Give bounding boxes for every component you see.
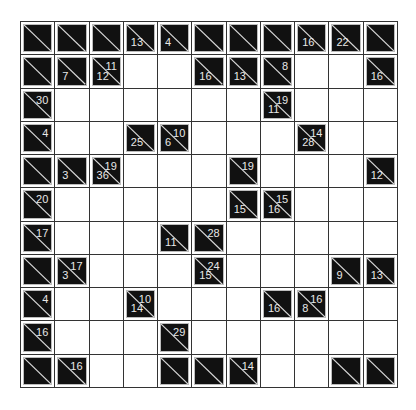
block-fill [194,24,223,52]
block-fill [23,57,52,85]
entry-cell[interactable] [55,122,88,154]
entry-cell[interactable] [329,222,362,254]
entry-cell[interactable] [124,255,157,287]
entry-cell[interactable] [329,122,362,154]
entry-cell[interactable] [124,155,157,187]
block-fill: 29 [160,323,189,351]
clue-block [364,22,397,54]
entry-cell[interactable] [295,222,328,254]
clue-block: 15 [227,188,260,220]
entry-cell[interactable] [295,155,328,187]
entry-cell[interactable] [261,122,294,154]
entry-cell[interactable] [227,255,260,287]
entry-cell[interactable] [124,55,157,87]
down-clue: 7 [62,71,68,82]
entry-cell[interactable] [192,122,225,154]
clue-block: 7 [55,55,88,87]
entry-cell[interactable] [364,122,397,154]
entry-cell[interactable] [158,55,191,87]
across-clue: 10 [173,128,185,139]
entry-cell[interactable] [90,321,123,353]
entry-cell[interactable] [124,321,157,353]
clue-block [364,355,397,387]
entry-cell[interactable] [261,255,294,287]
entry-cell[interactable] [227,122,260,154]
entry-cell[interactable] [90,355,123,387]
entry-cell[interactable] [192,188,225,220]
entry-cell[interactable] [364,222,397,254]
entry-cell[interactable] [227,321,260,353]
entry-cell[interactable] [192,155,225,187]
block-fill: 30 [23,91,52,119]
down-clue: 3 [62,270,68,281]
entry-cell[interactable] [90,122,123,154]
entry-cell[interactable] [158,155,191,187]
entry-cell[interactable] [329,55,362,87]
entry-cell[interactable] [55,321,88,353]
block-fill: 12 [366,157,395,185]
entry-cell[interactable] [90,255,123,287]
block-fill: 1428 [297,124,326,152]
entry-cell[interactable] [295,55,328,87]
entry-cell[interactable] [295,355,328,387]
diagonal-divider-icon [230,25,257,51]
entry-cell[interactable] [158,89,191,121]
across-clue: 19 [242,161,254,172]
block-fill: 7 [57,57,86,85]
entry-cell[interactable] [124,355,157,387]
entry-cell[interactable] [55,288,88,320]
clue-block: 29 [158,321,191,353]
clue-block: 16 [55,355,88,387]
across-clue: 29 [173,327,185,338]
entry-cell[interactable] [55,222,88,254]
entry-cell[interactable] [192,321,225,353]
entry-cell[interactable] [364,288,397,320]
entry-cell[interactable] [90,222,123,254]
entry-cell[interactable] [295,255,328,287]
diagonal-divider-icon [161,358,188,384]
entry-cell[interactable] [261,355,294,387]
clue-block: 1112 [90,55,123,87]
entry-cell[interactable] [55,188,88,220]
block-fill: 1516 [263,190,292,218]
down-clue: 25 [131,137,143,148]
down-clue: 6 [165,137,171,148]
entry-cell[interactable] [329,321,362,353]
entry-cell[interactable] [158,255,191,287]
entry-cell[interactable] [227,222,260,254]
clue-block: 4 [21,122,54,154]
entry-cell[interactable] [192,89,225,121]
entry-cell[interactable] [158,188,191,220]
entry-cell[interactable] [227,89,260,121]
entry-cell[interactable] [329,188,362,220]
entry-cell[interactable] [295,89,328,121]
entry-cell[interactable] [329,155,362,187]
entry-cell[interactable] [295,321,328,353]
entry-cell[interactable] [55,89,88,121]
entry-cell[interactable] [364,89,397,121]
entry-cell[interactable] [124,222,157,254]
entry-cell[interactable] [364,321,397,353]
clue-block [329,355,362,387]
down-clue: 16 [371,71,383,82]
entry-cell[interactable] [124,188,157,220]
block-fill [23,257,52,285]
entry-cell[interactable] [192,288,225,320]
entry-cell[interactable] [329,89,362,121]
entry-cell[interactable] [227,288,260,320]
entry-cell[interactable] [124,89,157,121]
clue-block: 4 [158,22,191,54]
entry-cell[interactable] [364,188,397,220]
entry-cell[interactable] [295,188,328,220]
entry-cell[interactable] [261,321,294,353]
entry-cell[interactable] [329,288,362,320]
down-clue: 16 [268,303,280,314]
entry-cell[interactable] [261,155,294,187]
block-fill: 28 [194,224,223,252]
entry-cell[interactable] [261,222,294,254]
entry-cell[interactable] [90,188,123,220]
clue-block: 13 [364,255,397,287]
entry-cell[interactable] [158,288,191,320]
entry-cell[interactable] [90,89,123,121]
entry-cell[interactable] [90,288,123,320]
